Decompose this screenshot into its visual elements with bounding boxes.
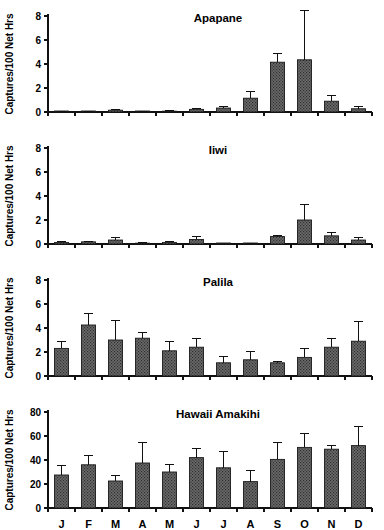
panel-group-2: 02468Captures/100 Net HrsIiwi [4, 143, 372, 250]
y-axis-title: Captures/100 Net Hrs [4, 409, 15, 511]
y-tick-label: 2 [35, 83, 41, 94]
bar-M [162, 111, 176, 112]
bar-J [189, 458, 203, 508]
bar-D [351, 341, 365, 376]
y-tick-label: 6 [35, 167, 41, 178]
panel-title: Palila [203, 276, 234, 288]
x-axis-label-A: A [139, 518, 147, 530]
bar-N [324, 449, 338, 508]
x-axis-label-J: J [220, 518, 226, 530]
panel-group-1: 02468Captures/100 Net HrsApapane [4, 11, 372, 118]
x-axis-label-S: S [274, 518, 281, 530]
y-tick-label: 8 [35, 11, 41, 22]
bar-D [351, 109, 365, 112]
bar-D [351, 240, 365, 244]
bar-J [189, 109, 203, 112]
bar-S [270, 62, 284, 112]
y-tick-label: 6 [35, 35, 41, 46]
panel-group-4: 020406080Captures/100 Net HrsHawaii Amak… [4, 407, 372, 530]
bar-J [216, 243, 230, 244]
y-tick-label: 0 [35, 239, 41, 250]
bar-O [297, 60, 311, 112]
y-tick-label: 20 [30, 479, 42, 490]
bar-A [135, 463, 149, 508]
y-tick-label: 8 [35, 143, 41, 154]
bar-J [54, 348, 68, 376]
bar-M [108, 110, 122, 112]
x-axis-label-J: J [58, 518, 64, 530]
y-tick-label: 2 [35, 347, 41, 358]
bar-J [216, 468, 230, 508]
bar-S [270, 363, 284, 376]
bar-J [54, 242, 68, 244]
x-axis-label-F: F [85, 518, 92, 530]
bar-M [108, 340, 122, 376]
y-tick-label: 0 [35, 503, 41, 514]
panel-title: Hawaii Amakihi [176, 408, 260, 420]
bar-J [216, 108, 230, 112]
x-axis-label-J: J [193, 518, 199, 530]
y-tick-label: 40 [30, 455, 42, 466]
bar-A [135, 338, 149, 376]
y-tick-label: 0 [35, 107, 41, 118]
bar-M [108, 240, 122, 244]
bar-A [243, 360, 257, 376]
bar-A [243, 98, 257, 112]
x-axis-label-D: D [355, 518, 363, 530]
panel-title: Iiwi [209, 144, 228, 156]
bar-A [135, 243, 149, 244]
y-tick-label: 4 [35, 323, 41, 334]
x-axis-label-M: M [111, 518, 120, 530]
y-tick-label: 6 [35, 299, 41, 310]
y-tick-label: 2 [35, 215, 41, 226]
bar-O [297, 447, 311, 508]
x-axis-label-A: A [247, 518, 255, 530]
bar-J [54, 475, 68, 508]
bar-N [324, 347, 338, 376]
bar-F [81, 325, 95, 376]
figure-panel-stack: 02468Captures/100 Net HrsApapane02468Cap… [0, 0, 384, 530]
bar-M [162, 472, 176, 508]
bar-N [324, 236, 338, 244]
y-tick-label: 60 [30, 431, 42, 442]
bar-S [270, 237, 284, 244]
bar-O [297, 220, 311, 244]
x-axis-label-M: M [165, 518, 174, 530]
bar-S [270, 459, 284, 508]
bar-J [189, 239, 203, 244]
x-axis-label-O: O [300, 518, 309, 530]
y-tick-label: 4 [35, 191, 41, 202]
x-axis-label-N: N [328, 518, 336, 530]
bar-M [162, 351, 176, 376]
bar-N [324, 101, 338, 112]
bar-D [351, 446, 365, 508]
y-tick-label: 4 [35, 59, 41, 70]
bar-A [243, 482, 257, 508]
bar-M [162, 242, 176, 244]
chart-canvas: 02468Captures/100 Net HrsApapane02468Cap… [0, 0, 384, 530]
y-tick-label: 0 [35, 371, 41, 382]
y-tick-label: 8 [35, 275, 41, 286]
panel-title: Apapane [194, 12, 243, 24]
y-axis-title: Captures/100 Net Hrs [4, 277, 15, 379]
y-axis-title: Captures/100 Net Hrs [4, 13, 15, 115]
y-tick-label: 80 [30, 407, 42, 418]
bar-O [297, 357, 311, 376]
bar-F [81, 242, 95, 244]
bar-J [216, 363, 230, 376]
bar-M [108, 481, 122, 508]
bar-F [81, 465, 95, 508]
bar-J [189, 347, 203, 376]
y-axis-title: Captures/100 Net Hrs [4, 145, 15, 247]
panel-group-3: 02468Captures/100 Net HrsPalila [4, 275, 372, 382]
